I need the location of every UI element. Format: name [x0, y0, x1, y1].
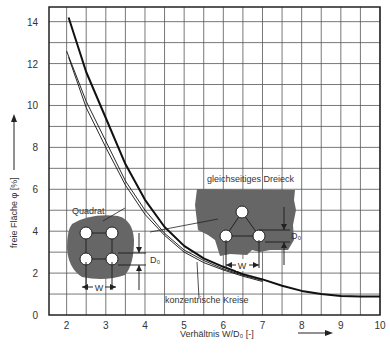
y-axis-label: freie Fläche φ [%] — [9, 114, 19, 248]
x-tick-label: 3 — [103, 320, 109, 331]
x-tick-label: 4 — [142, 320, 148, 331]
hole — [80, 227, 92, 239]
dreieck-inset: W D₀ gleichseitiges Dreieck — [150, 174, 301, 271]
y-tick-label: 12 — [27, 59, 39, 70]
svg-text:Verhältnis W/D₀ [-]: Verhältnis W/D₀ [-] — [180, 329, 254, 339]
y-tick-label: 14 — [27, 17, 39, 28]
quadrat-label: Quadrat — [72, 206, 105, 216]
chart: 234567891002468101214 W D₀ Quadrat — [0, 0, 390, 363]
hole — [106, 227, 118, 239]
y-tick-label: 0 — [32, 310, 38, 321]
quadrat-plate — [67, 215, 134, 279]
quadrat-inset: W D₀ Quadrat — [67, 206, 160, 293]
dreieck-label: gleichseitiges Dreieck — [207, 174, 295, 184]
dreieck-d0-label: D₀ — [291, 231, 301, 241]
y-tick-label: 10 — [27, 100, 39, 111]
x-tick-label: 2 — [64, 320, 70, 331]
svg-text:freie Fläche φ [%]: freie Fläche φ [%] — [9, 177, 19, 248]
x-tick-label: 7 — [260, 320, 266, 331]
y-tick-label: 2 — [32, 268, 38, 279]
x-axis-label: Verhältnis W/D₀ [-] — [180, 329, 333, 339]
quadrat-d0-label: D₀ — [150, 255, 160, 265]
kreise-label: konzentrische Kreise — [165, 295, 249, 305]
x-tick-label: 9 — [338, 320, 344, 331]
dreieck-w-label: W — [238, 261, 247, 271]
x-arrow-icon — [325, 330, 333, 336]
y-tick-label: 6 — [32, 184, 38, 195]
x-tick-label: 8 — [299, 320, 305, 331]
y-tick-label: 4 — [32, 226, 38, 237]
x-tick-label: 10 — [374, 320, 386, 331]
y-arrow-icon — [11, 114, 17, 122]
hole — [236, 206, 248, 218]
dreieck-plate — [195, 189, 296, 256]
quadrat-w-label: W — [95, 283, 104, 293]
y-tick-label: 8 — [32, 142, 38, 153]
